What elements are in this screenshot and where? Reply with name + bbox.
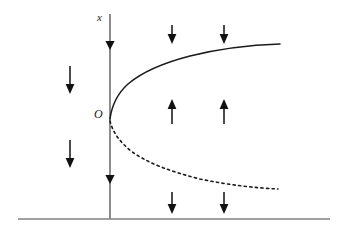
vertical-axis-label: x xyxy=(96,11,102,23)
axis-arrow-upper-icon xyxy=(105,41,114,50)
bifurcation-diagram-svg: x O xyxy=(0,0,344,236)
axis-arrow-lower-icon xyxy=(105,175,114,184)
flow-arrow-top-outer-icon xyxy=(220,25,229,44)
flow-arrow-bottom-outer-icon xyxy=(220,192,229,214)
flow-arrow-middle-inner-icon xyxy=(168,99,177,124)
flow-arrow-top-inner-icon xyxy=(168,25,177,44)
flow-arrow-left-upper-icon xyxy=(66,66,75,94)
flow-arrow-bottom-inner-icon xyxy=(168,192,177,214)
flow-arrow-left-lower-icon xyxy=(66,140,75,168)
figure-container: x O xyxy=(0,0,344,236)
stable-branch-curve xyxy=(110,44,280,119)
unstable-branch-curve xyxy=(110,121,278,189)
flow-arrow-middle-outer-icon xyxy=(220,99,229,124)
origin-label: O xyxy=(94,107,103,121)
